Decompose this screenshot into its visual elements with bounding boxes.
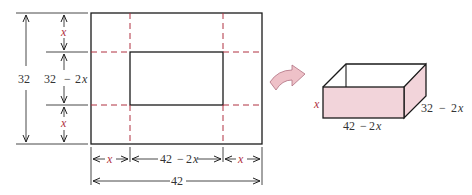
open-box [323,64,426,118]
middle-width-label-op: − [177,152,184,166]
base-rectangle [130,52,223,105]
middle-height-label-a: 32 [44,72,56,86]
box-front-face [323,87,404,118]
middle-width-label-a: 42 [160,152,172,166]
total-width-label: 42 [171,174,183,188]
fold-arrow-icon [270,65,305,90]
cut-lines [91,13,262,144]
box-folding-diagram: 32 x 32 − 2 x x x 42 − 2 x x 42 x 42 − 2… [0,0,472,195]
box-length-label-a: 42 [343,119,355,133]
box-width-label-a: 32 [421,101,433,115]
left-cut-x-label: x [106,152,113,166]
middle-width-label-b: 2 [186,152,192,166]
middle-width-label-var: x [192,152,199,166]
box-length-label-op: − [360,119,367,133]
middle-height-label-b: 2 [75,72,81,86]
box-length-label-b: 2 [369,119,375,133]
top-cut-x-label: x [60,25,67,39]
sheet-outline [91,13,262,144]
right-cut-x-label: x [237,152,244,166]
flat-sheet [91,13,262,144]
box-width-label-op: − [439,101,446,115]
total-height-label: 32 [18,72,30,86]
middle-height-label-var: x [81,72,88,86]
bottom-cut-x-label: x [60,116,67,130]
box-height-label: x [313,97,320,111]
box-width-label-var: x [457,101,464,115]
middle-height-label-op: − [64,72,71,86]
box-width-label-b: 2 [451,101,457,115]
box-length-label-var: x [375,119,382,133]
